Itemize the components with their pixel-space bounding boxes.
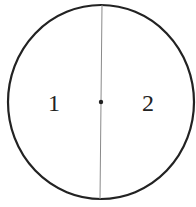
circle-diagram: 1 2 [0, 0, 196, 207]
center-dot [99, 100, 103, 104]
region-label-2: 2 [142, 90, 154, 116]
region-label-1: 1 [48, 90, 60, 116]
